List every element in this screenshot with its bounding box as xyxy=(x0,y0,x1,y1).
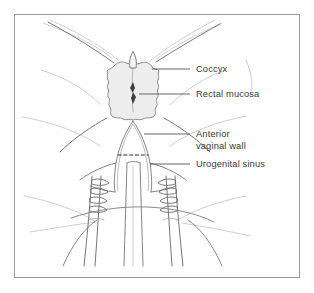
figure-frame xyxy=(15,15,300,278)
label-rectal-mucosa: Rectal mucosa xyxy=(196,89,260,99)
label-coccyx: Coccyx xyxy=(196,64,228,74)
figure-root: Coccyx Rectal mucosa Anterior vaginal wa… xyxy=(0,0,314,293)
label-urogenital-sinus: Urogenital sinus xyxy=(196,159,265,169)
anatomical-diagram: Coccyx Rectal mucosa Anterior vaginal wa… xyxy=(0,0,314,293)
label-anterior-vaginal-wall-line1: Anterior xyxy=(196,129,230,139)
label-anterior-vaginal-wall-line2: vaginal wall xyxy=(196,141,246,151)
